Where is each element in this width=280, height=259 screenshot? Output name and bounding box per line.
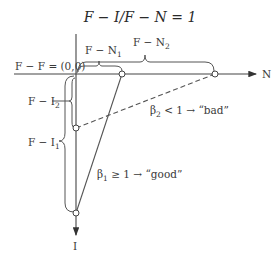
beta1-line — [76, 74, 122, 213]
brace-i1-label: F − I1 — [28, 136, 60, 151]
beta2-line — [76, 74, 215, 128]
i-axis-label: I — [73, 240, 77, 252]
brace-n2-label: F − N2 — [133, 36, 170, 51]
beta2-label: β2 < 1 → “bad” — [150, 104, 229, 119]
point-i2 — [73, 125, 79, 131]
point-n1 — [119, 71, 125, 77]
brace-i2 — [69, 78, 75, 128]
n-axis-label: N — [262, 68, 271, 80]
brace-i2-label: F − I2 — [28, 95, 60, 110]
beta1-label: β1 ≥ 1 → “good” — [97, 168, 182, 183]
point-n2 — [212, 71, 218, 77]
diagram: F − I/F − N = 1 N I F − F = (0,0) F − N1… — [0, 0, 280, 259]
brace-n1-label: F − N1 — [85, 44, 122, 59]
equation-title: F − I/F − N = 1 — [83, 9, 197, 25]
point-i1 — [73, 210, 79, 216]
origin-label: F − F = (0,0) — [15, 60, 85, 72]
